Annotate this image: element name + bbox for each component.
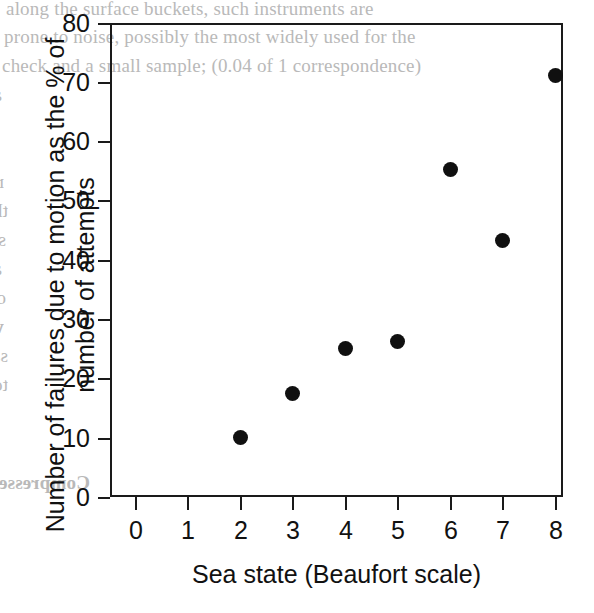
data-point — [495, 233, 510, 248]
x-tick-label: 7 — [483, 517, 523, 544]
x-tick-label: 1 — [168, 517, 208, 544]
scatter-chart: 80 70 60 50 40 30 20 10 0 0 1 2 3 4 5 6 … — [0, 0, 594, 613]
x-tick-2 — [240, 497, 242, 510]
scanned-page: along the surface buckets, such instrume… — [0, 0, 594, 613]
data-point — [338, 341, 353, 356]
x-tick-label: 3 — [273, 517, 313, 544]
x-tick-4 — [345, 497, 347, 510]
y-tick-label: 80 — [62, 11, 90, 36]
x-tick-0 — [135, 497, 137, 510]
x-axis-title: Sea state (Beaufort scale) — [110, 560, 563, 589]
y-tick-80 — [98, 23, 110, 25]
plot-area-frame — [110, 23, 563, 497]
y-axis-title-line1: Number of failures due to motion as the … — [41, 38, 69, 533]
x-tick-5 — [397, 497, 399, 510]
data-point — [548, 68, 563, 83]
x-tick-label: 2 — [221, 517, 261, 544]
data-point — [285, 386, 300, 401]
x-tick-6 — [450, 497, 452, 510]
y-axis-title-line2: number of attempts — [71, 177, 99, 392]
x-tick-3 — [292, 497, 294, 510]
x-tick-7 — [502, 497, 504, 510]
x-tick-label: 5 — [378, 517, 418, 544]
x-tick-label: 0 — [116, 517, 156, 544]
x-tick-1 — [187, 497, 189, 510]
data-point — [443, 162, 458, 177]
data-point — [233, 430, 248, 445]
x-tick-8 — [555, 497, 557, 510]
x-tick-label: 4 — [326, 517, 366, 544]
x-tick-label: 8 — [536, 517, 576, 544]
y-axis-title: Number of failures due to motion as the … — [40, 35, 100, 535]
data-point — [390, 334, 405, 349]
x-tick-label: 6 — [431, 517, 471, 544]
